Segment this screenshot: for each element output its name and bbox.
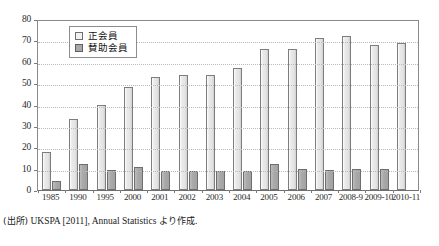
x-tick-label: 2007 [310,193,337,203]
legend-label-secondary: 賛助会員 [88,43,128,53]
y-tick-label: 50 [1,79,31,89]
bar-primary [151,77,160,190]
legend-swatch-primary-icon [75,32,83,40]
x-tick-label: 2009-10 [364,193,391,203]
source-note: (出所) UKSPA [2011], Annual Statistics より作… [3,214,198,227]
x-tick-mark [420,190,421,193]
y-tick-mark [34,170,37,171]
bar-primary [233,68,242,190]
y-tick-label: 60 [1,58,31,68]
y-tick-label: 10 [1,165,31,175]
bar-primary [370,45,379,190]
y-tick-label: 30 [1,122,31,132]
bar-primary [69,119,78,190]
chart-legend: 正会員 賛助会員 [69,26,137,58]
y-tick-label: 70 [1,36,31,46]
bar-secondary [352,169,361,190]
x-tick-label: 1985 [37,193,64,203]
y-tick-mark [34,63,37,64]
x-tick-label: 2010-11 [392,193,419,203]
bar-group [174,21,201,190]
gridline [38,128,418,129]
bar-primary [179,75,188,190]
bar-secondary [243,171,252,190]
x-tick-label: 1990 [64,193,91,203]
y-tick-mark [34,84,37,85]
y-tick-label: 20 [1,143,31,153]
x-tick-label: 2001 [146,193,173,203]
y-tick-mark [34,127,37,128]
gridline [38,85,418,86]
bar-primary [342,36,351,190]
bar-secondary [325,170,334,190]
y-tick-label: 80 [1,15,31,25]
y-tick-mark [34,148,37,149]
bar-secondary [189,171,198,190]
gridline [38,107,418,108]
source-note-prefix: (出所) [3,216,28,226]
legend-label-primary: 正会員 [88,31,118,41]
bar-group [338,21,365,190]
bar-primary [260,49,269,190]
bar-group [311,21,338,190]
bar-group [229,21,256,190]
bar-primary [97,105,106,191]
source-note-suffix: より作成. [159,216,198,226]
x-tick-label: 2004 [228,193,255,203]
legend-item-secondary: 賛助会員 [75,42,128,54]
bar-secondary [380,169,389,190]
x-tick-label: 2005 [255,193,282,203]
bar-group [202,21,229,190]
bar-secondary [107,170,116,190]
bar-group [284,21,311,190]
legend-item-primary: 正会員 [75,30,128,42]
bar-group [256,21,283,190]
bar-group [365,21,392,190]
y-tick-label: 40 [1,101,31,111]
bar-group [393,21,420,190]
y-tick-mark [34,41,37,42]
x-tick-label: 2002 [173,193,200,203]
bar-secondary [52,181,61,190]
bar-primary [288,49,297,190]
bar-primary [124,87,133,190]
bar-primary [206,75,215,190]
x-tick-label: 2003 [201,193,228,203]
bar-group [38,21,65,190]
source-note-body: UKSPA [2011], Annual Statistics [30,216,156,226]
y-tick-label: 0 [1,186,31,196]
y-tick-mark [34,20,37,21]
gridline [38,171,418,172]
bar-secondary [216,171,225,190]
x-tick-label: 2008-9 [337,193,364,203]
x-tick-label: 1995 [92,193,119,203]
y-tick-mark [34,106,37,107]
bar-secondary [270,164,279,190]
bar-secondary [161,171,170,190]
chart-figure: 01020304050607080 1985199019952000200120… [0,0,439,246]
bar-secondary [79,164,88,190]
x-tick-label: 2006 [283,193,310,203]
bar-primary [315,38,324,190]
bar-group [147,21,174,190]
legend-swatch-secondary-icon [75,44,83,52]
gridline [38,149,418,150]
y-tick-mark [34,191,37,192]
x-tick-label: 2000 [119,193,146,203]
gridline [38,64,418,65]
bar-secondary [298,169,307,190]
